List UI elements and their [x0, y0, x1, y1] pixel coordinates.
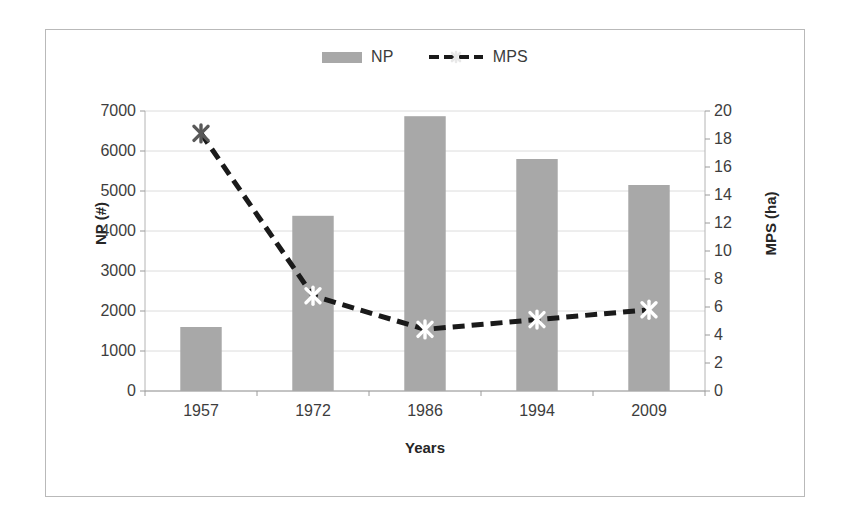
y-left-tick-1000: 1000 [100, 342, 136, 360]
legend-label-np: NP [371, 48, 394, 66]
y-right-tick-4: 4 [714, 326, 723, 344]
x-tick-2009: 2009 [593, 402, 705, 428]
x-tick-1994: 1994 [481, 402, 593, 428]
x-tick-1986: 1986 [369, 402, 481, 428]
y-left-tick-2000: 2000 [100, 302, 136, 320]
x-axis-title: Years [145, 439, 705, 456]
chart-legend: NP MPS [46, 48, 804, 66]
y-right-tick-2: 2 [714, 354, 723, 372]
mps-marker-1957 [194, 125, 208, 142]
plot-canvas [145, 111, 705, 391]
y-axis-right-title: MPS (ha) [762, 164, 779, 284]
legend-entry-mps[interactable]: MPS [428, 48, 528, 66]
bar-swatch-icon [322, 52, 362, 63]
y-axis-left-title: NP (#) [92, 164, 109, 284]
x-axis-ticks: 19571972198619942009 [145, 402, 705, 428]
bar-series-np [180, 116, 669, 391]
y-left-tick-0: 0 [127, 382, 136, 400]
bar-1994 [516, 159, 557, 391]
y-right-tick-10: 10 [714, 242, 732, 260]
y-left-tick-7000: 7000 [100, 102, 136, 120]
x-tick-1972: 1972 [257, 402, 369, 428]
y-right-tick-18: 18 [714, 130, 732, 148]
y-right-tick-20: 20 [714, 102, 732, 120]
plot-area [145, 111, 705, 391]
y-right-tick-16: 16 [714, 158, 732, 176]
y-right-tick-6: 6 [714, 298, 723, 316]
y-right-tick-0: 0 [714, 382, 723, 400]
bar-2009 [628, 185, 669, 391]
y-right-tick-12: 12 [714, 214, 732, 232]
y-axis-right-ticks: 20181614121086420 [714, 111, 764, 391]
y-right-tick-14: 14 [714, 186, 732, 204]
dashed-line-marker-icon [428, 50, 484, 64]
y-right-tick-8: 8 [714, 270, 723, 288]
bar-1986 [404, 116, 445, 391]
x-tick-1957: 1957 [145, 402, 257, 428]
bar-1957 [180, 327, 221, 391]
y-left-tick-6000: 6000 [100, 142, 136, 160]
legend-label-mps: MPS [493, 48, 528, 66]
chart-figure-frame: NP MPS 70006000500040003000200010000 201… [45, 29, 805, 497]
legend-entry-np[interactable]: NP [322, 48, 394, 66]
